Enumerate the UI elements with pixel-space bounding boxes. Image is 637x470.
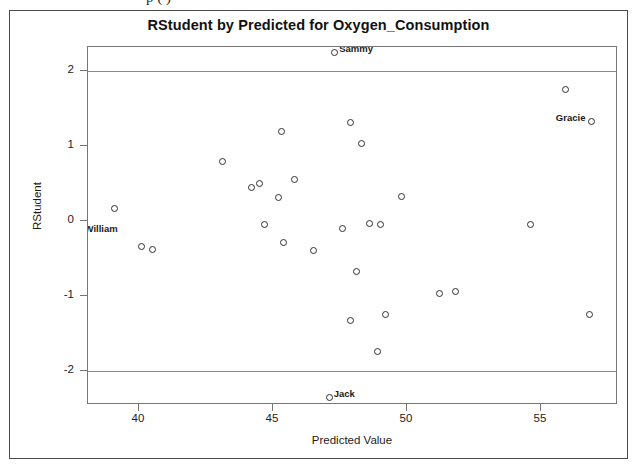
data-point-sammy [331,49,338,56]
y-tick-mark--1 [80,295,87,296]
data-point [256,180,263,187]
data-point [275,194,282,201]
data-point [436,290,443,297]
data-point [452,288,459,295]
cropped-header-label: p ( ) [146,0,171,6]
point-label-gracie: Gracie [556,113,586,123]
x-tick-mark-40 [138,404,139,411]
point-label-jack: Jack [334,389,355,399]
x-tick-label-55: 55 [520,413,560,425]
y-tick-mark-1 [80,145,87,146]
x-tick-label-50: 50 [386,413,426,425]
y-tick-mark--2 [80,370,87,371]
y-tick-label--1: -1 [48,289,74,301]
plot-frame: SammyGracieWilliamJack [87,46,617,404]
x-tick-mark-55 [540,404,541,411]
data-point [291,176,298,183]
data-point [562,86,569,93]
y-tick-mark-2 [80,70,87,71]
data-point [280,239,287,246]
reference-line-y-2 [88,71,616,72]
data-point [111,205,118,212]
data-point [358,140,365,147]
chart-title: RStudent by Predicted for Oxygen_Consump… [0,17,637,33]
x-tick-mark-50 [406,404,407,411]
x-tick-label-40: 40 [118,413,158,425]
data-point [353,268,360,275]
data-point [138,243,145,250]
y-tick-label-2: 2 [48,64,74,76]
data-point [219,158,226,165]
point-label-sammy: Sammy [339,46,373,54]
data-point-jack [326,394,333,401]
data-point [586,311,593,318]
data-point [374,348,381,355]
x-tick-label-45: 45 [252,413,292,425]
data-point [278,128,285,135]
data-point [339,225,346,232]
x-axis-title: Predicted Value [87,434,617,446]
data-point [310,247,317,254]
data-point [398,193,405,200]
data-point [248,184,255,191]
y-tick-label-1: 1 [48,139,74,151]
y-axis-title: RStudent [31,161,43,251]
y-tick-mark-0 [80,220,87,221]
point-label-william: William [87,224,118,234]
data-point [261,221,268,228]
x-tick-mark-45 [272,404,273,411]
y-tick-label-0: 0 [48,214,74,226]
data-point [347,119,354,126]
data-point [527,221,534,228]
data-point-gracie [588,118,595,125]
y-tick-label--2: -2 [48,364,74,376]
cropped-header-text: p ( ) [0,0,637,9]
data-point [382,311,389,318]
reference-line-y--2 [88,371,616,372]
data-point [366,220,373,227]
data-point [377,221,384,228]
data-point [347,317,354,324]
data-point [149,246,156,253]
